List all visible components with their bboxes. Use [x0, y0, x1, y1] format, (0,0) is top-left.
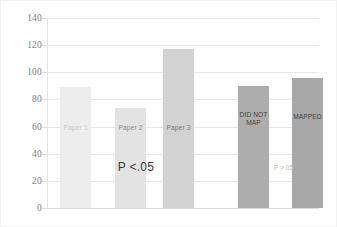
- bar-4[interactable]: [238, 86, 269, 208]
- y-axis-tick-label: 100: [8, 67, 42, 77]
- y-axis-tick-label: 120: [8, 40, 42, 50]
- y-axis-tick-label: 40: [8, 149, 42, 159]
- significance-annotation-1: P <.05: [118, 160, 155, 174]
- y-axis-tick-label: 0: [8, 203, 42, 213]
- bar-1[interactable]: [60, 87, 91, 208]
- y-axis-tick-label: 140: [8, 13, 42, 23]
- y-axis-tick-label: 20: [8, 176, 42, 186]
- plot-area: Paper 1Paper 2Paper 3DID NOT MAPMAPPEDP …: [47, 18, 319, 208]
- bar-2[interactable]: [115, 108, 146, 208]
- bar-chart: 140120100806040200 Paper 1Paper 2Paper 3…: [0, 0, 337, 227]
- gridline: [47, 208, 319, 209]
- y-axis-tickmark: [42, 208, 47, 209]
- y-axis-tick-label: 80: [8, 94, 42, 104]
- bar-3[interactable]: [163, 49, 194, 208]
- significance-annotation-2: P >.05: [274, 164, 294, 171]
- y-axis-tick-label: 60: [8, 122, 42, 132]
- bar-5[interactable]: [292, 78, 323, 208]
